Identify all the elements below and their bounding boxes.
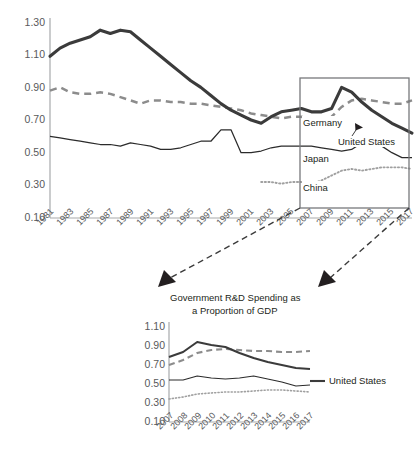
figure-root: 1.30 1.10 0.90 0.70 0.50 0.30 0.10 1981 … [0, 0, 420, 458]
series-line-united-states [50, 30, 412, 133]
y-tick-label: 0.30 [25, 178, 46, 190]
inset-title-line-2: a Proportion of GDP [192, 305, 278, 316]
inset-series-label-united-states: United States [329, 375, 386, 386]
x-tick-label: 2001 [234, 206, 255, 227]
inset-title-line-1: Government R&D Spending as [170, 292, 301, 303]
series-label-germany: Germany [303, 117, 342, 128]
x-tick-label: 2011 [334, 207, 355, 228]
y-tick-label: 0.70 [145, 358, 166, 370]
x-tick-label: 1993 [154, 206, 175, 227]
series-label-china: China [303, 182, 329, 193]
inset-chart: Government R&D Spending as a Proportion … [145, 292, 387, 431]
y-tick-label: 0.70 [25, 113, 46, 125]
inset-x-axis-labels: 2007 2008 2009 2010 2011 2012 2013 2014 … [154, 410, 315, 431]
main-series-labels: Germany United States Japan China [302, 116, 404, 193]
x-tick-label: 2009 [314, 206, 335, 227]
x-tick-label: 2015 [374, 206, 395, 227]
y-tick-label: 0.50 [145, 377, 166, 389]
x-tick-label: 1983 [54, 206, 75, 227]
main-chart: 1.30 1.10 0.90 0.70 0.50 0.30 0.10 1981 … [25, 16, 416, 227]
main-x-axis-labels: 1981 1983 1985 1987 1989 1991 1993 1995 … [34, 206, 415, 227]
x-tick-label: 1995 [174, 206, 195, 227]
inset-series-line-germany [169, 349, 310, 365]
inset-series-line-japan [169, 376, 310, 386]
inset-y-axis-labels: 1.10 0.90 0.70 0.50 0.30 0.10 [145, 320, 166, 427]
y-tick-label: 0.90 [145, 339, 166, 351]
y-tick-label: 1.30 [25, 16, 46, 28]
x-tick-label: 1997 [194, 206, 215, 227]
x-tick-label: 1987 [94, 206, 115, 227]
series-label-united-states: United States [338, 136, 395, 147]
y-tick-label: 0.90 [25, 81, 46, 93]
x-tick-label: 2017 [394, 206, 415, 227]
series-line-germany [50, 87, 412, 123]
x-tick-label: 1991 [134, 206, 155, 227]
main-y-axis-labels: 1.30 1.10 0.90 0.70 0.50 0.30 0.10 [25, 16, 46, 223]
y-tick-label: 0.30 [145, 396, 166, 408]
chart-svg: 1.30 1.10 0.90 0.70 0.50 0.30 0.10 1981 … [0, 0, 420, 458]
connector-arrow-right-icon [318, 270, 336, 287]
x-tick-label: 2003 [254, 206, 275, 227]
series-label-japan: Japan [303, 153, 329, 164]
y-tick-label: 1.10 [145, 320, 166, 332]
x-tick-label: 1985 [74, 206, 95, 227]
x-tick-label: 1999 [214, 206, 235, 227]
y-tick-label: 0.50 [25, 146, 46, 158]
series-line-china [261, 167, 412, 183]
y-tick-label: 1.10 [25, 48, 46, 60]
x-tick-label: 1981 [34, 206, 55, 227]
x-tick-label: 2005 [274, 206, 295, 227]
x-tick-label: 1989 [114, 206, 135, 227]
united-states-leader-arrow-icon [355, 123, 363, 131]
connector-arrow-left-icon [158, 270, 176, 287]
inset-series-line-china [169, 390, 310, 399]
x-tick-label: 2013 [354, 206, 375, 227]
